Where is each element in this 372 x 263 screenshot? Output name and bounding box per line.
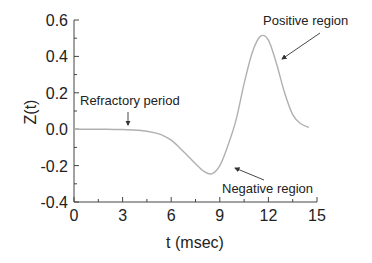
x-tick-label: 3 [118, 207, 127, 224]
x-tick-label: 0 [70, 207, 79, 224]
y-axis-label: Z(t) [22, 100, 39, 125]
tick-marks [74, 20, 317, 202]
annotation-arrow-negative [235, 168, 264, 180]
y-tick-label: 0.4 [46, 48, 68, 65]
annotation-negative-region: Negative region [222, 181, 313, 196]
x-tick-label: 12 [260, 207, 278, 224]
y-tick-label: 0.0 [46, 121, 68, 138]
annotation-positive-region: Positive region [263, 13, 348, 28]
y-tick-label: 0.6 [46, 12, 68, 29]
x-tick-label: 6 [167, 207, 176, 224]
x-tick-label: 15 [308, 207, 326, 224]
y-tick-label: -0.4 [40, 194, 68, 211]
x-axis-label: t (msec) [166, 234, 224, 251]
y-tick-label: -0.2 [40, 158, 68, 175]
y-tick-label: 0.2 [46, 85, 68, 102]
annotation-refractory-period: Refractory period [80, 93, 180, 108]
x-tick-label: 9 [215, 207, 224, 224]
axes [74, 20, 317, 202]
annotation-arrow-positive [282, 33, 320, 59]
line-chart: 03691215-0.4-0.20.00.20.40.6 t (msec) Z(… [0, 0, 372, 263]
